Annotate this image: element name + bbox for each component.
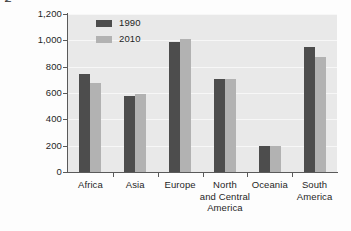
bar-1990 [124,96,135,172]
y-tick-label: 600 [2,88,62,98]
legend-swatch [96,20,112,27]
bar-group [214,14,236,172]
bar-1990 [79,74,90,172]
x-category-label-line: and Central [188,191,262,203]
legend-label: 2010 [119,33,141,45]
bar-1990 [169,42,180,172]
y-tick-label: 400 [2,114,62,124]
y-tick-mark [63,93,68,94]
y-tick-label: 1,200 [2,9,62,19]
x-tick-mark [113,173,114,177]
bar-group [304,14,326,172]
y-tick-mark [63,119,68,120]
gridline [68,67,337,68]
bar-1990 [304,47,315,172]
bar-1990 [214,79,225,172]
bar-group [169,14,191,172]
bar-2010 [315,57,326,172]
x-tick-mark [292,173,293,177]
gridline [68,93,337,94]
y-tick-mark [63,146,68,147]
y-tick-mark [63,172,68,173]
bar-1990 [259,146,270,172]
y-tick-label: 1,000 [2,35,62,45]
bar-2010 [270,146,281,172]
y-tick-mark [63,67,68,68]
x-tick-mark [247,173,248,177]
legend-swatch [96,36,112,43]
x-category-label-line: America [188,202,262,214]
y-tick-label: 0 [2,167,62,177]
x-category-label-line: South [278,179,351,191]
bar-2010 [180,39,191,172]
gridline [68,14,337,15]
bar-2010 [135,94,146,172]
gridline [68,119,337,120]
y-tick-mark [63,14,68,15]
y-tick-mark [63,40,68,41]
bar-group [259,14,281,172]
x-category-label-line: America [278,191,351,203]
gridline [68,146,337,147]
bar-2010 [225,79,236,172]
y-tick-label: 800 [2,62,62,72]
bar-2010 [90,83,101,172]
x-tick-mark [203,173,204,177]
y-tick-label: 200 [2,141,62,151]
bar-chart: Million hectares of forest 0200400600800… [0,0,351,231]
x-category-label: SouthAmerica [278,179,351,202]
x-tick-mark [158,173,159,177]
legend-label: 1990 [119,17,141,29]
